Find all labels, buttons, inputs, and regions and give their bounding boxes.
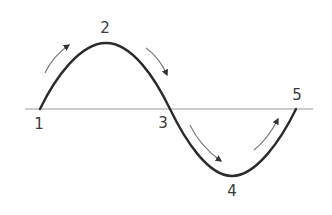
point-label-1: 1 xyxy=(34,115,44,133)
point-label-3: 3 xyxy=(158,114,168,132)
arrow-2-to-3-icon xyxy=(146,48,167,75)
point-label-4: 4 xyxy=(227,182,237,200)
point-label-2: 2 xyxy=(100,19,110,37)
sine-wave-diagram: 1 2 3 4 5 xyxy=(0,0,332,215)
arrow-3-to-4-icon xyxy=(190,125,221,161)
point-label-5: 5 xyxy=(292,86,302,104)
